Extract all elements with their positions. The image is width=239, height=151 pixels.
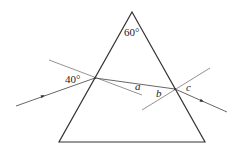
left-refraction-point bbox=[94, 77, 96, 79]
prism-refraction-diagram: 60° 40° a b c bbox=[0, 0, 239, 151]
incident-arrow-icon bbox=[41, 95, 45, 98]
incident-ray bbox=[16, 78, 95, 106]
angle-a-label: a bbox=[135, 80, 141, 92]
apex-angle-label: 60° bbox=[124, 26, 139, 38]
incidence-angle-label: 40° bbox=[65, 73, 80, 85]
angle-c-label: c bbox=[186, 81, 191, 93]
angle-b-label: b bbox=[156, 87, 162, 99]
emergent-arrow-icon bbox=[200, 99, 204, 102]
right-refraction-point bbox=[174, 88, 176, 90]
